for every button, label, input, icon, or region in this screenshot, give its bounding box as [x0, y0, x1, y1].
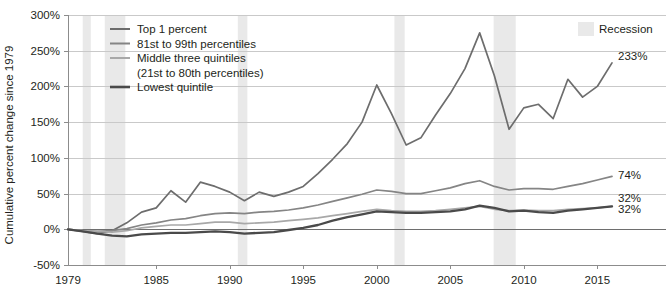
legend-label: Middle three quintiles — [137, 52, 246, 64]
y-tick-label: 200% — [31, 80, 60, 92]
recession-legend-label: Recession — [599, 23, 653, 35]
legend-label: Top 1 percent — [137, 23, 207, 35]
x-tick-label: 2005 — [437, 274, 463, 286]
y-tick-label: 300% — [31, 9, 60, 21]
end-label-81st-to-99th-percentiles: 74% — [618, 169, 641, 181]
y-axis-title-group: Cumulative percent change since 1979 — [3, 46, 15, 245]
x-tick-label: 1979 — [55, 274, 81, 286]
y-tick-label: -50% — [33, 259, 60, 271]
y-axis-title: Cumulative percent change since 1979 — [3, 46, 15, 245]
chart-container: 300%250%200%150%100%50%0%-50% 1979198519… — [0, 0, 666, 302]
y-tick-label: 0% — [43, 223, 60, 235]
recession-legend: Recession — [578, 22, 653, 36]
y-tick-label: 100% — [31, 152, 60, 164]
legend-label: 81st to 99th percentiles — [137, 38, 256, 50]
end-label-lowest-quintile: 32% — [618, 203, 641, 215]
recession-band — [105, 15, 126, 265]
x-axis-ticks: 19791985199019952000200520102015 — [55, 265, 610, 286]
recession-band — [83, 15, 91, 265]
x-tick-label: 2010 — [511, 274, 537, 286]
recession-legend-swatch — [578, 22, 594, 36]
y-tick-label: 250% — [31, 45, 60, 57]
legend-sublabel: (21st to 80th percentiles) — [137, 67, 264, 79]
x-tick-label: 1985 — [143, 274, 169, 286]
series-line-81st-to-99th-percentiles — [68, 176, 612, 231]
x-tick-label: 1995 — [290, 274, 316, 286]
end-label-top-1-percent: 233% — [618, 50, 647, 62]
recession-band — [494, 15, 516, 265]
x-tick-label: 1990 — [217, 274, 243, 286]
y-axis-ticks: 300%250%200%150%100%50%0%-50% — [31, 9, 68, 271]
series-end-labels: 233%74%32%32% — [618, 50, 647, 216]
y-tick-label: 50% — [37, 188, 60, 200]
legend-label: Lowest quintile — [137, 81, 213, 93]
income-growth-line-chart: 300%250%200%150%100%50%0%-50% 1979198519… — [0, 0, 666, 302]
x-tick-label: 2015 — [585, 274, 611, 286]
y-tick-label: 150% — [31, 116, 60, 128]
x-tick-label: 2000 — [364, 274, 390, 286]
